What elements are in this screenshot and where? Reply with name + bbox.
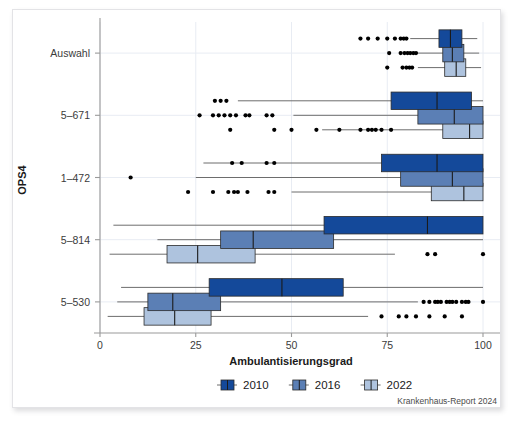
- outlier-point: [425, 252, 429, 256]
- outlier-point: [387, 51, 391, 55]
- outlier-point: [358, 37, 362, 41]
- outlier-point: [433, 252, 437, 256]
- outlier-point: [399, 51, 403, 55]
- x-tick-labels: 0255075100: [97, 333, 492, 351]
- legend-label: 2016: [315, 379, 341, 391]
- outlier-point: [265, 161, 269, 165]
- boxplot-2010-1–472: [203, 154, 483, 172]
- legend-item-2022: [361, 380, 381, 390]
- outlier-point: [217, 113, 221, 117]
- box-rect: [391, 92, 471, 110]
- outlier-point: [213, 99, 217, 103]
- outlier-point: [422, 300, 426, 304]
- legend: 201020162022: [217, 379, 412, 391]
- y-tick-labels: Auswahl5–6711–4725–8145–530: [50, 47, 100, 308]
- outlier-point: [379, 314, 383, 318]
- outlier-point: [385, 66, 389, 70]
- outlier-point: [236, 190, 240, 194]
- outlier-point: [224, 99, 228, 103]
- x-tick-label: 0: [97, 339, 103, 351]
- outlier-point: [228, 128, 232, 132]
- outlier-point: [222, 113, 226, 117]
- x-axis-title: Ambulantisierungsgrad: [229, 355, 352, 367]
- boxplot-2010-5–671: [213, 92, 483, 110]
- legend-item-2016: [289, 380, 309, 390]
- legend-label: 2010: [243, 379, 269, 391]
- y-axis-title: OPS4: [16, 164, 28, 194]
- outlier-point: [247, 113, 251, 117]
- boxplot-2010-Auswahl: [358, 30, 477, 47]
- outlier-point: [454, 300, 458, 304]
- outlier-point: [427, 314, 431, 318]
- y-tick-label: 5–671: [61, 109, 90, 121]
- boxplot-chart: 0255075100 Auswahl5–6711–4725–8145–530 A…: [0, 0, 516, 430]
- box-rect: [324, 216, 483, 234]
- outlier-point: [234, 113, 238, 117]
- outlier-point: [410, 66, 414, 70]
- box-rect: [382, 154, 483, 172]
- outlier-point: [228, 113, 232, 117]
- outlier-point: [366, 128, 370, 132]
- outlier-point: [219, 99, 223, 103]
- outlier-point: [404, 37, 408, 41]
- outlier-point: [266, 190, 270, 194]
- outlier-point: [211, 113, 215, 117]
- outlier-point: [393, 37, 397, 41]
- x-tick-label: 50: [286, 339, 298, 351]
- outlier-point: [460, 314, 464, 318]
- outlier-point: [240, 161, 244, 165]
- outlier-point: [129, 175, 133, 179]
- outlier-point: [197, 113, 201, 117]
- x-tick-label: 25: [190, 339, 202, 351]
- outlier-point: [186, 190, 190, 194]
- outlier-point: [232, 190, 236, 194]
- outlier-point: [370, 128, 374, 132]
- y-tick-label: 5–814: [61, 234, 90, 246]
- outlier-point: [337, 128, 341, 132]
- outlier-point: [466, 300, 470, 304]
- outlier-point: [481, 252, 485, 256]
- boxplot-2022-Auswahl: [385, 59, 481, 77]
- outlier-point: [211, 190, 215, 194]
- outlier-point: [376, 37, 380, 41]
- outlier-point: [358, 128, 362, 132]
- y-tick-label: 1–472: [61, 172, 90, 184]
- x-tick-label: 75: [381, 339, 393, 351]
- outlier-point: [270, 113, 274, 117]
- y-tick-label: Auswahl: [50, 47, 90, 59]
- outlier-point: [389, 128, 393, 132]
- legend-item-2010: [217, 380, 237, 390]
- outlier-point: [272, 161, 276, 165]
- outlier-point: [379, 128, 383, 132]
- y-tick-label: 5–530: [61, 296, 90, 308]
- outlier-point: [366, 37, 370, 41]
- outlier-point: [265, 113, 269, 117]
- outlier-point: [439, 300, 443, 304]
- outlier-point: [226, 190, 230, 194]
- outlier-point: [397, 314, 401, 318]
- legend-label: 2022: [387, 379, 413, 391]
- outlier-point: [414, 314, 418, 318]
- outlier-point: [272, 128, 276, 132]
- source-note: Krankenhaus-Report 2024: [397, 396, 497, 406]
- box-rect: [221, 231, 334, 249]
- outlier-point: [314, 128, 318, 132]
- outlier-point: [450, 300, 454, 304]
- outlier-point: [245, 190, 249, 194]
- outlier-point: [481, 300, 485, 304]
- outlier-point: [243, 113, 247, 117]
- outlier-point: [385, 37, 389, 41]
- box-rect: [209, 279, 343, 297]
- outlier-point: [443, 314, 447, 318]
- outlier-point: [272, 190, 276, 194]
- outlier-point: [427, 300, 431, 304]
- outlier-point: [230, 161, 234, 165]
- outlier-point: [374, 128, 378, 132]
- x-tick-label: 100: [474, 339, 492, 351]
- outlier-point: [400, 66, 404, 70]
- outlier-point: [460, 300, 464, 304]
- outlier-point: [289, 128, 293, 132]
- outlier-point: [414, 51, 418, 55]
- outlier-point: [404, 314, 408, 318]
